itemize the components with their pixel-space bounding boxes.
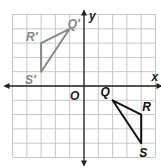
y-axis-label: y bbox=[88, 9, 97, 23]
arrow-left-icon bbox=[4, 83, 10, 89]
arrow-down-icon bbox=[81, 161, 87, 167]
arrow-up-icon bbox=[81, 10, 87, 16]
vertex-label: S′ bbox=[25, 73, 37, 87]
x-axis-label: x bbox=[151, 70, 160, 84]
origin-label: O bbox=[70, 89, 80, 103]
labels: xyOQRSQ′R′S′ bbox=[25, 9, 159, 161]
vertex-label: S bbox=[139, 146, 147, 160]
coordinate-plane: xyOQRSQ′R′S′ bbox=[0, 0, 161, 168]
vertex-label: Q′ bbox=[68, 17, 81, 31]
vertex-label: Q bbox=[101, 85, 111, 99]
vertex-label: R bbox=[142, 100, 151, 114]
vertex-label: R′ bbox=[26, 30, 39, 44]
